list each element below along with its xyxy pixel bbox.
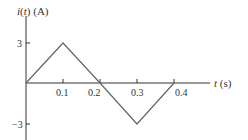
xtick-label-0.3: 0.3	[131, 87, 144, 98]
x-axis-label: t (s)	[214, 77, 232, 90]
xtick-label-0.2: 0.2	[88, 87, 101, 98]
ytick-label-neg3: −3	[12, 119, 23, 130]
y-axis-label: i(t) (A)	[17, 5, 49, 18]
chart: 3 −3 0.1 0.2 0.3 0.4 i(t) (A) t (s)	[0, 0, 248, 140]
xtick-label-0.1: 0.1	[56, 87, 69, 98]
xtick-label-0.4: 0.4	[175, 87, 188, 98]
ytick-label-3: 3	[17, 38, 22, 49]
